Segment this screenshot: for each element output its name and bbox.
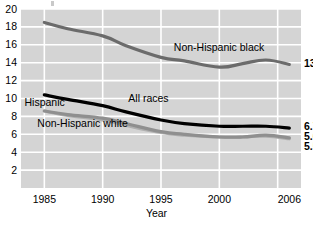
- series-label: Non-Hispanic black: [174, 42, 264, 53]
- x-axis-title: Year: [0, 207, 313, 219]
- plot-top-mark: [51, 1, 54, 6]
- y-axis-tick-label: 16: [0, 39, 17, 49]
- series-label: Hispanic: [25, 97, 65, 108]
- y-axis-tick-label: 8: [0, 111, 17, 121]
- line-chart: 2018161412108642 19851990199520002006 No…: [0, 0, 313, 230]
- y-axis-tick-label: 14: [0, 57, 17, 67]
- y-axis-tick-label: 6: [0, 129, 17, 139]
- x-axis-tick-label: 1990: [83, 194, 123, 205]
- x-axis-tick-label: 1995: [141, 194, 181, 205]
- y-axis-tick-label: 2: [0, 165, 17, 175]
- series-end-value: 5.5: [304, 141, 313, 152]
- x-axis-tick-label: 2006: [269, 194, 309, 205]
- series-label: All races: [128, 93, 168, 104]
- y-axis-tick-label: 10: [0, 93, 17, 103]
- x-axis-tick-label: 1985: [24, 194, 64, 205]
- y-axis-tick-label: 4: [0, 147, 17, 157]
- y-axis-tick-label: 18: [0, 21, 17, 31]
- y-axis-tick-label: 12: [0, 75, 17, 85]
- series-end-value: 13.8: [304, 58, 313, 69]
- y-axis-tick-label: 20: [0, 4, 17, 14]
- x-axis-tick-label: 2000: [199, 194, 239, 205]
- series-label: Non-Hispanic white: [37, 118, 127, 129]
